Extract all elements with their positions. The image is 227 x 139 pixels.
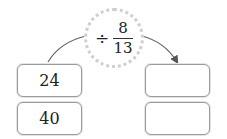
- fraction: 8 13: [113, 21, 133, 56]
- operator-circle: ÷ 8 13: [84, 8, 144, 68]
- output-arrow: [142, 36, 177, 62]
- input-arc: [48, 36, 86, 62]
- fraction-denominator: 13: [114, 41, 133, 56]
- input-box-1: 24: [17, 64, 82, 97]
- answer-box-1[interactable]: [145, 64, 210, 97]
- input-box-2: 40: [17, 102, 82, 135]
- fraction-numerator: 8: [118, 21, 128, 36]
- divide-symbol: ÷: [95, 28, 109, 48]
- answer-box-2[interactable]: [145, 102, 210, 135]
